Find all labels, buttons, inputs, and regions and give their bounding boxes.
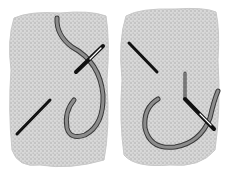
panel-step-2	[121, 8, 219, 165]
embroidery-illustration	[0, 0, 235, 176]
panel-step-1	[10, 12, 109, 167]
fabric-swatch	[121, 8, 219, 165]
